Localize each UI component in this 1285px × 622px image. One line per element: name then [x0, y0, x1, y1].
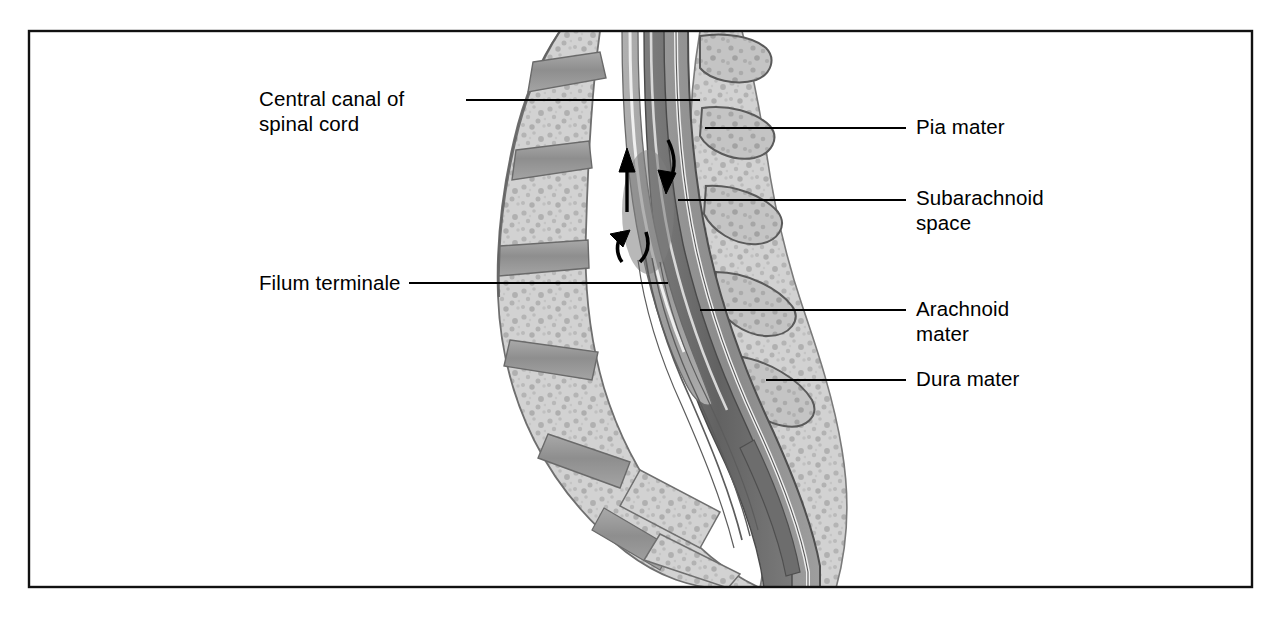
spine-illustration-svg	[0, 0, 1285, 622]
label-dura-mater: Dura mater	[916, 366, 1020, 391]
label-filum-terminale: Filum terminale	[259, 270, 401, 295]
label-central-canal: Central canal of spinal cord	[259, 86, 404, 136]
label-subarachnoid-space: Subarachnoid space	[916, 185, 1044, 235]
anatomical-figure: Central canal of spinal cord Filum termi…	[0, 0, 1285, 622]
label-pia-mater: Pia mater	[916, 114, 1005, 139]
label-arachnoid-mater: Arachnoid mater	[916, 296, 1009, 346]
